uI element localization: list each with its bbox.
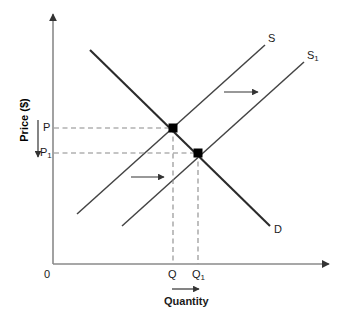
quantity-new-label: Q1 <box>192 269 205 280</box>
supply-shifted-label-subscript: 1 <box>314 54 318 63</box>
supply-curve-label: S <box>268 33 275 44</box>
demand-curve-label: D <box>274 224 282 235</box>
quantity-new-label-base: Q <box>192 268 201 280</box>
x-axis-title: Quantity <box>164 296 209 307</box>
supply-demand-chart: S S1 D P P1 0 Q Q1 Quantity Price ($) <box>0 0 342 320</box>
quantity-initial-label: Q <box>168 269 177 280</box>
equilibrium-marker-new <box>194 149 203 158</box>
price-new-label-subscript: 1 <box>47 151 51 160</box>
demand-curve-group <box>90 50 270 226</box>
axes-group <box>53 14 329 264</box>
supply-shifted-curve-group <box>122 62 304 226</box>
quantity-new-label-subscript: 1 <box>201 273 205 282</box>
y-axis-title: Price ($) <box>18 98 30 141</box>
equilibrium-marker-initial <box>169 124 178 133</box>
supply-shifted-curve-label: S1 <box>307 50 319 61</box>
origin-label: 0 <box>44 269 50 280</box>
price-initial-label: P <box>43 122 50 133</box>
demand-curve <box>90 50 270 226</box>
price-new-label: P1 <box>40 147 52 158</box>
y-axis-title-wrapper: Price ($) <box>14 81 30 159</box>
supply-shifted-curve <box>122 62 304 226</box>
